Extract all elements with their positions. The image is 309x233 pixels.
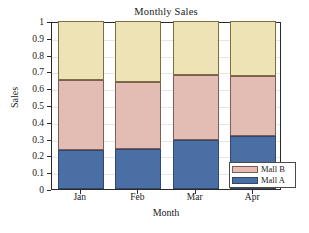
legend-swatch (232, 177, 258, 184)
y-axis-tick-labels: 00.10.20.30.40.50.60.70.80.91 (0, 22, 48, 190)
x-axis-label: Month (51, 207, 281, 218)
bar-segment[interactable] (173, 140, 219, 189)
y-tick-label: 1 (39, 17, 44, 27)
bar-segment[interactable] (115, 149, 161, 189)
x-tick-label: Jan (73, 192, 86, 202)
y-tick-label: 0.8 (32, 51, 44, 61)
legend-label: Mall A (261, 176, 285, 185)
x-axis-tick-labels: JanFebMarApr (51, 192, 281, 208)
y-tick-mark (47, 190, 51, 191)
y-tick-label: 0.3 (32, 135, 44, 145)
y-tick-label: 0.4 (32, 118, 44, 128)
x-tick-label: Feb (130, 192, 144, 202)
legend-swatch (232, 166, 258, 173)
bar-segment[interactable] (173, 75, 219, 141)
y-tick-label: 0.5 (32, 101, 44, 111)
bar-segment[interactable] (58, 150, 104, 189)
y-tick-label: 0.1 (32, 168, 44, 178)
x-tick-label: Apr (245, 192, 260, 202)
y-tick-label: 0.7 (32, 67, 44, 77)
x-tick-label: Mar (187, 192, 203, 202)
y-tick-label: 0.6 (32, 84, 44, 94)
bar-segment[interactable] (230, 76, 276, 136)
legend-item[interactable]: Mall A (232, 175, 293, 186)
bar-segment[interactable] (115, 21, 161, 82)
legend-label: Mall B (261, 165, 285, 174)
bar-group[interactable] (115, 23, 161, 189)
bar-group[interactable] (58, 23, 104, 189)
y-tick-label: 0 (39, 185, 44, 195)
chart-figure: Monthly Sales Sales 00.10.20.30.40.50.60… (0, 0, 309, 233)
y-tick-label: 0.9 (32, 34, 44, 44)
y-tick-label: 0.2 (32, 151, 44, 161)
bar-segment[interactable] (230, 21, 276, 76)
bar-segment[interactable] (58, 80, 104, 151)
chart-legend[interactable]: Mall BMall A (229, 162, 296, 188)
bar-group[interactable] (173, 23, 219, 189)
legend-item[interactable]: Mall B (232, 164, 293, 175)
bar-segment[interactable] (173, 21, 219, 75)
bar-segment[interactable] (115, 82, 161, 148)
chart-title: Monthly Sales (51, 6, 281, 17)
bar-segment[interactable] (58, 21, 104, 80)
